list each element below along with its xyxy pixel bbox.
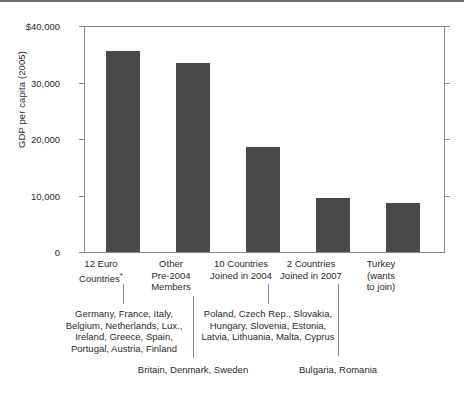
category-line-2: (wants	[338, 270, 424, 282]
y-tick-right-20000	[444, 139, 450, 140]
note-line-4: Portugal, Austria, Finland	[36, 343, 212, 355]
note-pre2004-members: Britain, Denmark, Sweden	[123, 364, 263, 376]
category-line-1: Turkey	[338, 258, 424, 270]
y-tick-30000	[79, 83, 85, 84]
y-tick-label-0: 0	[0, 247, 60, 258]
note-line-2: Hungary, Slovenia, Estonia,	[178, 320, 358, 332]
leader-line-euro12	[123, 284, 124, 304]
y-tick-10000	[79, 196, 85, 197]
y-tick-right-40000	[444, 26, 450, 27]
y-axis-title: GDP per capita (2005)	[16, 35, 27, 165]
y-tick-40000	[79, 26, 85, 27]
gdp-per-capita-bar-chart: GDP per capita (2005) $40,000 30,000 20,…	[0, 0, 464, 398]
plot-top-rule	[84, 26, 445, 27]
bar-turkey	[386, 203, 420, 252]
y-tick-0	[79, 252, 85, 253]
note-joined-2004-countries: Poland, Czech Rep., Slovakia, Hungary, S…	[178, 308, 358, 343]
note-line-3: Latvia, Lithuania, Malta, Cyprus	[178, 331, 358, 343]
category-line-3: to join)	[338, 281, 424, 293]
note-line-1: Britain, Denmark, Sweden	[123, 364, 263, 376]
category-label-turkey: Turkey (wants to join)	[338, 258, 424, 293]
bar-other-pre-2004-members	[176, 63, 210, 252]
bar-10-countries-joined-2004	[246, 147, 280, 252]
y-tick-label-40000: $40,000	[0, 21, 60, 32]
y-tick-label-20000: 20,000	[0, 134, 60, 145]
leader-line-joined2004	[268, 284, 269, 304]
y-tick-label-30000: 30,000	[0, 77, 60, 88]
note-line-1: Poland, Czech Rep., Slovakia,	[178, 308, 358, 320]
footnote-asterisk: *	[120, 271, 123, 280]
y-tick-label-10000: 10,000	[0, 190, 60, 201]
y-tick-right-30000	[444, 83, 450, 84]
note-joined-2007-countries: Bulgaria, Romania	[283, 364, 393, 376]
bar-12-euro-countries	[106, 51, 140, 252]
x-axis-line	[84, 252, 445, 253]
y-tick-20000	[79, 139, 85, 140]
category-line-3: Members	[128, 281, 214, 293]
plot-area: $40,000 30,000 20,000 10,000 0	[84, 26, 445, 252]
y-tick-right-10000	[444, 196, 450, 197]
bar-2-countries-joined-2007	[316, 198, 350, 252]
note-line-1: Bulgaria, Romania	[283, 364, 393, 376]
